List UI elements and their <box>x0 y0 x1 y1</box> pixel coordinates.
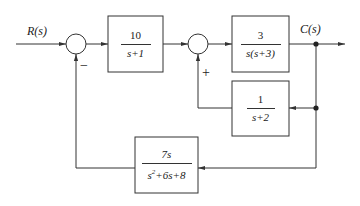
block-h2: 7s s2+6s+8 <box>135 137 198 193</box>
output-junction-dot <box>313 41 318 46</box>
summer2-plus-sign: + <box>202 66 210 80</box>
summing-junction-1 <box>66 34 86 54</box>
summing-junction-2 <box>188 34 208 54</box>
block-g1: 10 s+1 <box>108 16 163 72</box>
block-g2: 3 s(s+3) <box>232 16 289 72</box>
output-signal-label: C(s) <box>300 22 321 37</box>
input-signal-label: R(s) <box>27 24 47 39</box>
summer1-minus-sign: − <box>80 59 88 73</box>
feedback-junction-dot <box>313 105 318 110</box>
block-h1: 1 s+2 <box>232 81 289 136</box>
